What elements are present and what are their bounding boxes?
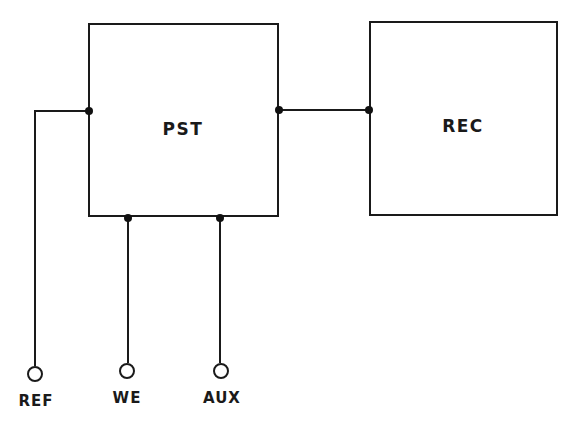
- rec-input-node: [365, 106, 373, 114]
- block-diagram: PST REC REF WE AUX: [0, 0, 568, 423]
- aux-label: AUX: [203, 389, 241, 407]
- ref-terminal: [28, 367, 42, 381]
- ref-label: REF: [18, 392, 53, 410]
- aux-terminal: [214, 364, 228, 378]
- pst-we-node: [124, 214, 132, 222]
- rec-label: REC: [442, 116, 484, 136]
- we-terminal: [120, 364, 134, 378]
- pst-output-node: [275, 106, 283, 114]
- we-label: WE: [113, 389, 142, 407]
- pst-ref-node: [85, 107, 93, 115]
- pst-aux-node: [216, 214, 224, 222]
- pst-label: PST: [163, 119, 204, 139]
- ref-wire: [35, 111, 89, 366]
